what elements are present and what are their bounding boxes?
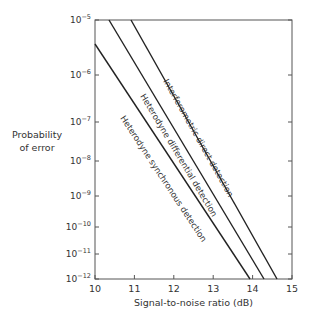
- y-tick-label: 10−11: [66, 247, 91, 259]
- y-tick-label: 10−8: [70, 154, 91, 166]
- x-tick-label: 12: [168, 283, 180, 294]
- chart-canvas: 10−510−610−710−810−910−1010−1110−12 1011…: [0, 0, 314, 319]
- y-tick-label: 10−6: [70, 68, 91, 80]
- series-line: [109, 20, 264, 279]
- x-tick-label: 10: [89, 283, 101, 294]
- y-tick-label: 10−12: [66, 272, 91, 284]
- x-tick-label: 15: [286, 283, 298, 294]
- x-axis-label: Signal-to-noise ratio (dB): [95, 297, 292, 308]
- x-axis-ticks: 101112131415: [89, 275, 298, 294]
- x-tick-label: 11: [128, 283, 140, 294]
- plot-frame: [95, 20, 292, 279]
- y-tick-label: 10−10: [66, 220, 91, 232]
- series-line: [95, 44, 250, 279]
- y-tick-label: 10−9: [70, 189, 91, 201]
- y-axis-label-line1: Probability: [8, 128, 66, 141]
- series-lines: Heterodyne synchronous detectionHeterody…: [95, 20, 277, 279]
- y-axis-label: Probability of error: [8, 128, 66, 154]
- y-tick-label: 10−7: [70, 115, 91, 127]
- x-tick-label: 14: [247, 283, 259, 294]
- y-axis-label-line2: of error: [8, 141, 66, 154]
- y-tick-label: 10−5: [70, 13, 91, 25]
- x-tick-label: 13: [207, 283, 219, 294]
